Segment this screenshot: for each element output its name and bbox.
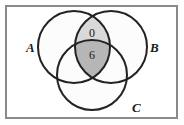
- venn-diagram-figure: A B C 0 6: [0, 0, 184, 125]
- region-count-a-and-b-not-c: 0: [89, 26, 95, 40]
- set-label-c: C: [132, 100, 141, 115]
- set-label-b: B: [149, 40, 159, 55]
- venn-diagram-canvas: A B C 0 6: [0, 0, 184, 125]
- region-count-a-and-b-and-c: 6: [89, 48, 95, 62]
- set-label-a: A: [25, 40, 35, 55]
